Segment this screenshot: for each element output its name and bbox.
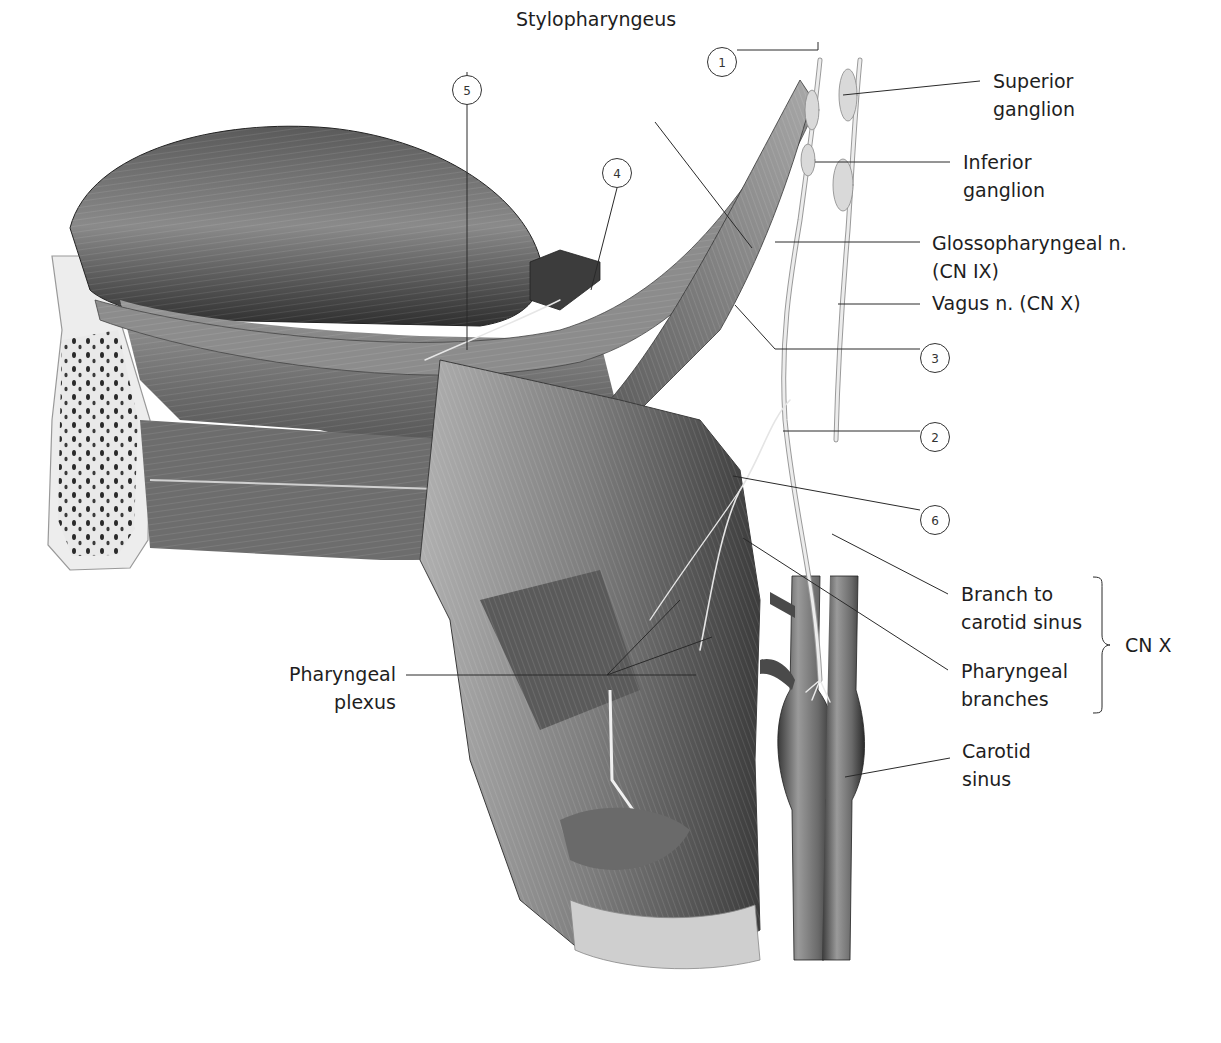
- label-branch-carotid-line1: Branch to: [961, 583, 1053, 606]
- leader-callout-6: [733, 476, 920, 510]
- label-glossopharyngeal-line2: (CN IX): [932, 260, 999, 283]
- label-pharyngeal-plexus-line2: plexus: [270, 691, 396, 714]
- callout-5: 5: [452, 75, 482, 105]
- carotid-arteries: [760, 576, 865, 960]
- leader-stylopharyngeus: [655, 122, 752, 248]
- anatomy-illustration: [0, 0, 1221, 1043]
- label-vagus: Vagus n. (CN X): [932, 292, 1081, 315]
- anatomy-figure: Stylopharyngeus Superior ganglion Inferi…: [0, 0, 1221, 1043]
- pharynx: [420, 360, 760, 969]
- label-stylopharyngeus: Stylopharyngeus: [516, 8, 676, 31]
- label-glossopharyngeal-line1: Glossopharyngeal n.: [932, 232, 1127, 255]
- callout-4: 4: [602, 158, 632, 188]
- label-inferior-ganglion-line2: ganglion: [963, 179, 1045, 202]
- cn-x-brace: [1093, 577, 1110, 713]
- leader-superior-ganglion: [843, 81, 980, 95]
- callout-2: 2: [920, 422, 950, 452]
- leader-callout-4: [591, 188, 617, 290]
- label-branch-carotid-line2: carotid sinus: [961, 611, 1082, 634]
- leader-callout-3: [735, 305, 920, 349]
- callout-3: 3: [920, 343, 950, 373]
- label-superior-ganglion-line1: Superior: [993, 70, 1073, 93]
- palatine-fragment: [530, 250, 600, 310]
- label-inferior-ganglion-line1: Inferior: [963, 151, 1032, 174]
- callout-6: 6: [920, 505, 950, 535]
- callout-1: 1: [707, 47, 737, 77]
- label-cn-x-group: CN X: [1125, 634, 1172, 656]
- label-carotid-sinus-line1: Carotid: [962, 740, 1031, 763]
- label-carotid-sinus-line2: sinus: [962, 768, 1011, 791]
- tongue: [70, 126, 541, 326]
- label-superior-ganglion-line2: ganglion: [993, 98, 1075, 121]
- label-pharyngeal-branches-line1: Pharyngeal: [961, 660, 1068, 683]
- label-pharyngeal-plexus-line1: Pharyngeal: [270, 663, 396, 686]
- label-pharyngeal-branches-line2: branches: [961, 688, 1049, 711]
